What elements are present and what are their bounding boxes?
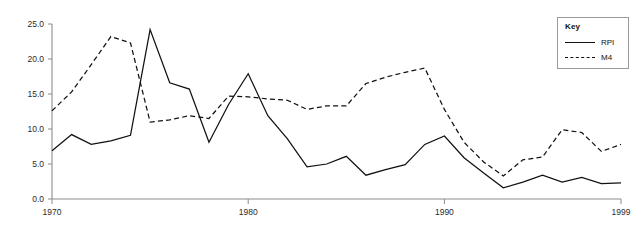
x-tick-label: 1999 bbox=[612, 207, 631, 217]
x-tick-label: 1980 bbox=[239, 207, 258, 217]
series-line-rpi bbox=[52, 30, 621, 188]
legend-label-rpi: RPI bbox=[601, 37, 614, 48]
x-tick-marks bbox=[52, 199, 621, 204]
x-axis bbox=[52, 199, 621, 204]
legend-swatch-dashed-icon bbox=[565, 57, 595, 58]
y-tick-marks bbox=[48, 24, 52, 199]
y-tick-label: 0.0 bbox=[32, 194, 44, 204]
series-line-m4 bbox=[52, 37, 621, 176]
y-tick-label: 20.0 bbox=[27, 54, 44, 64]
x-tick-label: 1970 bbox=[43, 207, 62, 217]
line-chart: 0.05.010.015.020.025.0 1970198019901999 … bbox=[0, 0, 641, 228]
x-axis-tick-labels: 1970198019901999 bbox=[43, 207, 631, 217]
chart-legend: Key RPI M4 bbox=[557, 17, 629, 69]
y-tick-label: 5.0 bbox=[32, 159, 44, 169]
legend-label-m4: M4 bbox=[601, 52, 612, 63]
y-tick-label: 10.0 bbox=[27, 124, 44, 134]
chart-plot-area: 0.05.010.015.020.025.0 1970198019901999 bbox=[0, 0, 641, 228]
x-tick-label: 1990 bbox=[435, 207, 454, 217]
legend-title: Key bbox=[565, 22, 580, 31]
y-tick-label: 15.0 bbox=[27, 89, 44, 99]
y-axis-tick-labels: 0.05.010.015.020.025.0 bbox=[27, 19, 44, 204]
y-axis bbox=[48, 24, 52, 199]
legend-swatch-solid-icon bbox=[565, 42, 595, 43]
y-tick-label: 25.0 bbox=[27, 19, 44, 29]
legend-entry-rpi: RPI bbox=[565, 37, 625, 49]
legend-entry-m4: M4 bbox=[565, 52, 625, 64]
